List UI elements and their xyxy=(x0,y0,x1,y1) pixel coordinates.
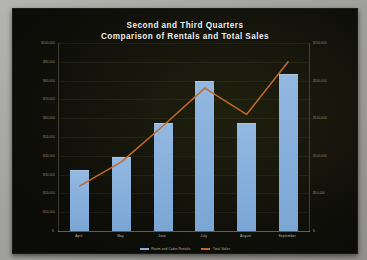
legend-label: Room and Cabin Rentals xyxy=(151,247,190,251)
y-axis-right-tick: $- xyxy=(313,229,316,233)
y-axis-right-tick: $200,000 xyxy=(313,79,327,83)
y-axis-left-tick: $40,000 xyxy=(43,154,55,158)
gridline xyxy=(59,231,309,232)
x-axis-label-july: July xyxy=(184,234,224,238)
legend-swatch-icon xyxy=(140,248,149,251)
y-axis-left-tick: $30,000 xyxy=(43,173,55,177)
y-axis-right-tick: $250,000 xyxy=(313,41,327,45)
y-axis-left-tick: $20,000 xyxy=(43,191,55,195)
axis-line-right xyxy=(309,43,310,232)
x-axis-label-may: May xyxy=(101,234,141,238)
y-axis-left-tick: $80,000 xyxy=(43,79,55,83)
chart-title-line1: Second and Third Quarters xyxy=(13,21,357,32)
legend-swatch-icon xyxy=(201,248,210,250)
slide-page: Second and Third Quarters Comparison of … xyxy=(0,0,367,260)
x-axis-label-june: June xyxy=(142,234,182,238)
y-axis-left-tick: $100,000 xyxy=(41,41,55,45)
y-axis-right: $250,000$200,000$150,000$100,000$50,000$… xyxy=(311,9,358,254)
chart-title: Second and Third Quarters Comparison of … xyxy=(13,21,357,42)
legend-item[interactable]: Room and Cabin Rentals xyxy=(140,247,191,251)
y-axis-left-tick: $- xyxy=(52,229,55,233)
y-axis-left-tick: $90,000 xyxy=(43,60,55,64)
y-axis-right-tick: $50,000 xyxy=(313,191,325,195)
x-axis-label-september: September xyxy=(267,234,307,238)
total-sales-line xyxy=(59,43,309,231)
y-axis-left-tick: $50,000 xyxy=(43,135,55,139)
chart-legend: Room and Cabin RentalsTotal Sales xyxy=(13,247,357,251)
legend-label: Total Sales xyxy=(213,247,230,251)
legend-item[interactable]: Total Sales xyxy=(201,247,230,251)
y-axis-right-tick: $100,000 xyxy=(313,154,327,158)
plot-area xyxy=(59,43,309,231)
chart-slide: Second and Third Quarters Comparison of … xyxy=(12,8,358,254)
y-axis-left-tick: $60,000 xyxy=(43,116,55,120)
y-axis-right-tick: $150,000 xyxy=(313,116,327,120)
y-axis-left-tick: $70,000 xyxy=(43,97,55,101)
chart-title-line2: Comparison of Rentals and Total Sales xyxy=(13,32,357,43)
x-axis-label-april: April xyxy=(59,234,99,238)
y-axis-left-tick: $10,000 xyxy=(43,210,55,214)
x-axis-label-august: August xyxy=(226,234,266,238)
y-axis-left: $100,000$90,000$80,000$70,000$60,000$50,… xyxy=(13,9,57,254)
